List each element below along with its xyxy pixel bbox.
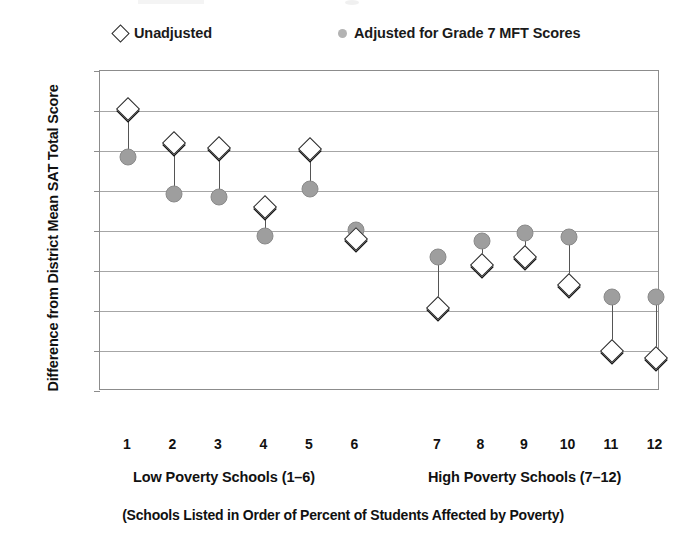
- gridline: [100, 111, 658, 112]
- y-tick-mark: [94, 151, 100, 152]
- chart-footnote: (Schools Listed in Order of Percent of S…: [0, 507, 686, 523]
- y-tick-mark: [94, 231, 100, 232]
- data-point-unadjusted[interactable]: [600, 339, 624, 363]
- circle-marker-icon: [338, 29, 347, 38]
- y-tick-mark: [94, 71, 100, 72]
- y-tick-mark: [94, 111, 100, 112]
- data-point-unadjusted[interactable]: [116, 97, 140, 121]
- y-tick-mark: [94, 191, 100, 192]
- data-point-adjusted[interactable]: [473, 232, 490, 249]
- x-tick-label-school-8: 8: [466, 436, 496, 452]
- data-point-adjusted[interactable]: [165, 186, 182, 203]
- data-point-adjusted[interactable]: [211, 188, 228, 205]
- data-point-adjusted[interactable]: [430, 249, 447, 266]
- data-point-unadjusted[interactable]: [513, 245, 537, 269]
- data-point-adjusted[interactable]: [256, 227, 273, 244]
- x-tick-label-school-11: 11: [596, 436, 626, 452]
- data-point-adjusted[interactable]: [120, 149, 137, 166]
- y-tick-mark: [94, 271, 100, 272]
- data-point-unadjusted[interactable]: [469, 253, 493, 277]
- legend-label-adjusted: Adjusted for Grade 7 MFT Scores: [354, 24, 581, 42]
- x-tick-label-school-4: 4: [249, 436, 279, 452]
- x-tick-label-school-12: 12: [640, 436, 670, 452]
- legend-item-adjusted[interactable]: Adjusted for Grade 7 MFT Scores: [338, 24, 581, 42]
- y-tick-mark: [94, 391, 100, 392]
- data-point-unadjusted[interactable]: [426, 296, 450, 320]
- data-point-adjusted[interactable]: [647, 289, 664, 306]
- group-label-high-poverty: High Poverty Schools (7–12): [428, 469, 621, 485]
- y-axis-title: Difference from District Mean SAT Total …: [45, 58, 61, 418]
- data-point-adjusted[interactable]: [302, 180, 319, 197]
- x-tick-label-school-6: 6: [340, 436, 370, 452]
- gridline: [100, 271, 658, 272]
- x-tick-label-school-3: 3: [203, 436, 233, 452]
- page-top-artifact: [138, 0, 204, 4]
- plot-area: [99, 70, 659, 390]
- chart-figure: Unadjusted Adjusted for Grade 7 MFT Scor…: [0, 0, 686, 541]
- data-point-unadjusted[interactable]: [643, 346, 667, 370]
- y-tick-mark: [94, 351, 100, 352]
- data-point-adjusted[interactable]: [560, 229, 577, 246]
- data-point-unadjusted[interactable]: [207, 136, 231, 160]
- gridline: [100, 351, 658, 352]
- x-tick-label-school-7: 7: [422, 436, 452, 452]
- gridline: [100, 191, 658, 192]
- x-tick-label-school-9: 9: [509, 436, 539, 452]
- x-tick-label-school-5: 5: [294, 436, 324, 452]
- data-point-unadjusted[interactable]: [556, 273, 580, 297]
- legend-item-unadjusted[interactable]: Unadjusted: [114, 24, 212, 42]
- y-tick-mark: [94, 311, 100, 312]
- diamond-marker-icon: [111, 24, 129, 42]
- x-tick-label-school-10: 10: [553, 436, 583, 452]
- legend-label-unadjusted: Unadjusted: [134, 24, 212, 42]
- group-label-low-poverty: Low Poverty Schools (1–6): [133, 469, 315, 485]
- gridline: [100, 151, 658, 152]
- x-tick-label-school-2: 2: [158, 436, 188, 452]
- chart-legend: Unadjusted Adjusted for Grade 7 MFT Scor…: [0, 24, 686, 50]
- data-point-adjusted[interactable]: [604, 289, 621, 306]
- x-tick-label-school-1: 1: [112, 436, 142, 452]
- data-point-adjusted[interactable]: [517, 224, 534, 241]
- page-top-artifact-2: [345, 0, 359, 5]
- gridline: [100, 311, 658, 312]
- data-point-unadjusted[interactable]: [298, 137, 322, 161]
- data-point-unadjusted[interactable]: [252, 195, 276, 219]
